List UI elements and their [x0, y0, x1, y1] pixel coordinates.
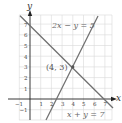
svg-text:6: 6: [24, 32, 28, 38]
y-axis-label: y: [26, 1, 33, 11]
svg-text:7: 7: [24, 22, 28, 28]
svg-text:1: 1: [24, 86, 28, 92]
equation-label-x-plus-y: x + y = 7: [67, 110, 106, 119]
equation-label-2x-minus-y: 2x − y = 5: [51, 21, 95, 30]
x-axis-label: x: [116, 93, 121, 103]
svg-text:4: 4: [72, 101, 76, 107]
svg-text:7: 7: [104, 101, 108, 107]
svg-text:6: 6: [93, 101, 97, 107]
x-tick-labels: −1 1 2 3 4 5 6 7: [15, 101, 108, 107]
svg-text:5: 5: [24, 43, 28, 49]
svg-text:2: 2: [24, 75, 28, 81]
svg-text:5: 5: [82, 101, 86, 107]
svg-text:2: 2: [50, 101, 54, 107]
svg-text:3: 3: [24, 64, 28, 70]
intersection-point: [71, 65, 74, 68]
coordinate-plane: y x 2x − y = 5 x + y = 7 (4, 3) −1 1 2 3…: [0, 0, 122, 123]
svg-text:1: 1: [40, 101, 44, 107]
svg-text:3: 3: [61, 101, 65, 107]
svg-text:−1: −1: [20, 107, 28, 113]
svg-text:4: 4: [24, 54, 28, 60]
intersection-label: (4, 3): [46, 63, 68, 72]
